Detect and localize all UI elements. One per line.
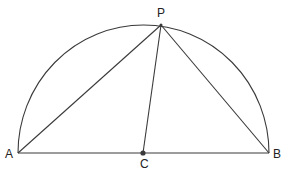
label-a: A [5,147,13,161]
label-p: P [157,6,165,20]
point-p-dot [160,24,163,27]
label-c: C [140,157,149,171]
point-c-dot [140,150,145,155]
segment-ap [18,25,161,153]
segment-pc [143,25,161,153]
label-b: B [273,147,281,161]
semicircle-diagram: A B C P [0,0,287,171]
semicircle-arc [18,25,269,153]
